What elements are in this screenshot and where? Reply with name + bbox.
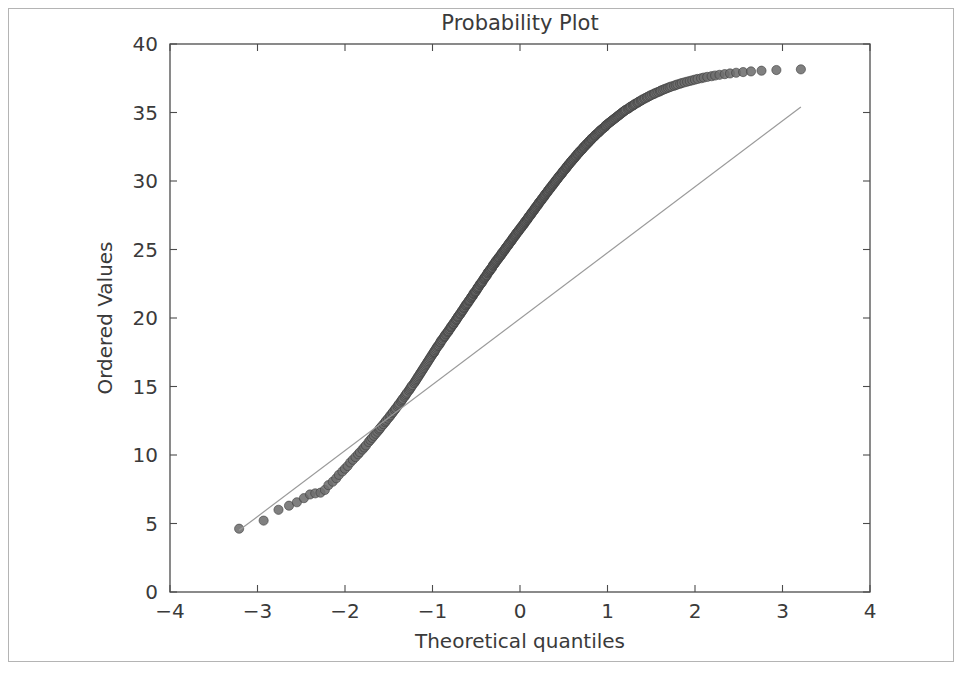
data-point (772, 65, 781, 74)
plot-canvas: −4−3−2−101234 0510152025303540 Probabili… (0, 0, 976, 677)
y-tick-labels-group: 0510152025303540 (133, 32, 158, 604)
probability-plot-figure: −4−3−2−101234 0510152025303540 Probabili… (0, 0, 976, 677)
x-tick-label: −4 (155, 599, 184, 623)
data-point (796, 65, 805, 74)
y-tick-label: 10 (133, 443, 158, 467)
x-axis-label: Theoretical quantiles (414, 629, 625, 653)
scatter-points-group (235, 65, 806, 534)
data-point (757, 66, 766, 75)
x-tick-label: −2 (330, 599, 359, 623)
x-tick-labels-group: −4−3−2−101234 (155, 599, 876, 623)
y-tick-label: 5 (145, 512, 158, 536)
data-point (259, 516, 268, 525)
x-tick-label: 3 (776, 599, 789, 623)
y-tick-label: 30 (133, 169, 158, 193)
y-tick-label: 35 (133, 101, 158, 125)
reference-line-group (239, 107, 801, 530)
data-point (274, 505, 283, 514)
y-tick-label: 40 (133, 32, 158, 56)
data-point (235, 524, 244, 533)
x-tick-label: 2 (689, 599, 702, 623)
screenshot-page: −4−3−2−101234 0510152025303540 Probabili… (0, 0, 976, 677)
y-tick-label: 25 (133, 238, 158, 262)
y-tick-label: 20 (133, 306, 158, 330)
y-tick-label: 15 (133, 375, 158, 399)
x-tick-label: −1 (418, 599, 447, 623)
reference-line (239, 107, 801, 530)
plot-title: Probability Plot (441, 11, 598, 35)
x-tick-label: −3 (243, 599, 272, 623)
x-tick-label: 1 (601, 599, 614, 623)
x-tick-label: 4 (864, 599, 877, 623)
x-tick-label: 0 (514, 599, 527, 623)
y-tick-label: 0 (145, 580, 158, 604)
data-point (746, 67, 755, 76)
y-axis-label: Ordered Values (93, 241, 117, 394)
